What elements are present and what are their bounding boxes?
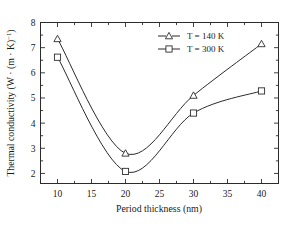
x-axis-title: Period thickness (nm)	[116, 203, 202, 215]
plot-frame	[41, 23, 279, 184]
x-tick-label: 30	[189, 189, 199, 199]
y-tick-label: 2	[31, 169, 36, 179]
square-marker	[166, 46, 172, 52]
legend-item: T = 140 K	[158, 31, 225, 41]
x-tick-label: 35	[223, 189, 233, 199]
y-tick-label: 6	[31, 68, 36, 78]
data-curves	[58, 39, 262, 173]
x-tick-label: 10	[53, 189, 63, 199]
chart-svg: 10152025303540 2345678 Period thickness …	[0, 0, 295, 230]
x-tick-label: 20	[121, 189, 131, 199]
x-tick-label: 15	[87, 189, 97, 199]
square-marker	[258, 88, 264, 94]
square-marker	[190, 110, 196, 116]
legend-item: T = 300 K	[158, 44, 225, 54]
y-tick-label: 5	[31, 93, 36, 103]
data-markers	[54, 35, 265, 174]
y-tick-labels: 2345678	[31, 18, 36, 179]
y-tick-label: 3	[31, 144, 36, 154]
triangle-marker	[54, 35, 61, 41]
x-tick-labels: 10152025303540	[53, 189, 267, 199]
square-marker	[54, 54, 60, 60]
legend-label: T = 300 K	[187, 44, 225, 54]
legend-label: T = 140 K	[187, 31, 225, 41]
axis-ticks	[41, 23, 279, 184]
triangle-marker	[165, 32, 172, 38]
chart-figure: 10152025303540 2345678 Period thickness …	[0, 0, 295, 230]
y-tick-label: 7	[31, 43, 36, 53]
y-tick-label: 4	[31, 119, 36, 129]
series-curve	[58, 57, 262, 172]
x-tick-label: 40	[257, 189, 267, 199]
triangle-marker	[258, 40, 265, 46]
y-axis-title: Thermal conductivity (W · (m · K)−1)	[5, 29, 17, 176]
triangle-marker	[122, 150, 129, 156]
series-curve	[58, 39, 262, 155]
square-marker	[122, 168, 128, 174]
y-tick-label: 8	[31, 18, 36, 28]
chart-legend: T = 140 KT = 300 K	[158, 31, 225, 54]
x-tick-label: 25	[155, 189, 165, 199]
